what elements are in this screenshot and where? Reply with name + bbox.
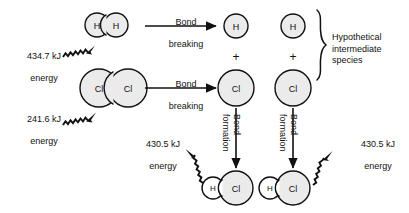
cl2-right-atom-label: Cl <box>124 84 133 94</box>
energy-label-hcl-left-unit: energy <box>149 161 177 171</box>
intermediate-cl-atom-left: Cl <box>218 70 254 106</box>
hcl-molecule-left: H Cl <box>202 171 253 205</box>
energy-label-h2: 434.7 kJ energy <box>8 40 70 95</box>
intermediate-cl-atom-right: Cl <box>275 70 311 106</box>
plus-sign-right: + <box>284 50 302 64</box>
bond-energy-diagram: H H Cl Cl <box>0 0 409 213</box>
energy-label-h2-value: 434.7 kJ <box>27 51 61 61</box>
intermediate-cl-left-label: Cl <box>232 84 241 94</box>
hypothetical-species-brace <box>317 10 326 80</box>
energy-label-h2-unit: energy <box>30 73 58 83</box>
bond-breaking-h2-line2: breaking <box>169 39 204 49</box>
cl2-left-atom-label: Cl <box>95 84 104 94</box>
intermediate-h-right-label: H <box>290 22 297 32</box>
h2-left-atom-label: H <box>94 21 101 31</box>
hcl-molecule-right: H Cl <box>259 171 310 205</box>
bond-breaking-cl2-line2: breaking <box>169 101 204 111</box>
hypothetical-caption-line2: intermediate <box>332 44 382 54</box>
plus-sign-left: + <box>227 50 245 64</box>
intermediate-cl-right-label: Cl <box>289 84 298 94</box>
hcl-left-h-label: H <box>210 184 216 193</box>
h2-right-atom-label: H <box>113 21 120 31</box>
intermediate-h-atom-left: H <box>224 14 248 38</box>
energy-label-hcl-left-value: 430.5 kJ <box>146 139 180 149</box>
bond-breaking-h2-line1: Bond <box>175 17 196 27</box>
energy-label-cl2-unit: energy <box>30 136 58 146</box>
bond-formation-label-left-line1: Bond <box>231 114 242 135</box>
energy-out-arrow-right <box>313 151 333 185</box>
bond-breaking-label-h2: Bond breaking <box>145 6 217 61</box>
h2-molecule: H H <box>85 13 128 37</box>
energy-label-hcl-left: 430.5 kJ energy <box>124 128 192 183</box>
hypothetical-species-caption: Hypothetical intermediate species <box>332 32 382 67</box>
intermediate-h-left-label: H <box>233 22 240 32</box>
bond-formation-label-right-line2: formation <box>277 114 288 152</box>
hcl-right-cl-label: Cl <box>289 184 298 194</box>
energy-label-hcl-right-unit: energy <box>364 161 392 171</box>
hypothetical-caption-line3: species <box>332 55 363 65</box>
intermediate-h-atom-right: H <box>281 14 305 38</box>
hcl-right-h-label: H <box>267 184 273 193</box>
hcl-left-cl-label: Cl <box>232 184 241 194</box>
cl2-molecule: Cl Cl <box>80 69 147 107</box>
energy-label-cl2: 241.6 kJ energy <box>8 103 70 158</box>
energy-label-hcl-right-value: 430.5 kJ <box>361 139 395 149</box>
energy-label-hcl-right: 430.5 kJ energy <box>340 128 406 183</box>
bond-breaking-cl2-line1: Bond <box>175 79 196 89</box>
bond-formation-label-left-line2: formation <box>220 114 231 152</box>
bond-formation-label-right-line1: Bond <box>288 114 299 135</box>
bond-breaking-label-cl2: Bond breaking <box>145 68 217 123</box>
energy-label-cl2-value: 241.6 kJ <box>27 114 61 124</box>
hypothetical-caption-line1: Hypothetical <box>332 32 382 42</box>
